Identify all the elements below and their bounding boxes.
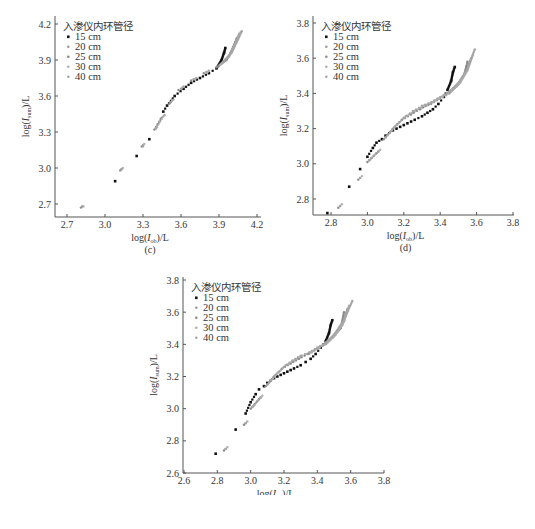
y-tick-label: 3.6 — [297, 53, 310, 64]
x-tick-label: 4.2 — [251, 219, 264, 230]
x-tick-label: 3.4 — [311, 475, 324, 486]
y-tick-label: 3.8 — [297, 18, 310, 29]
x-tick-label: 3.0 — [361, 217, 374, 228]
y-tick-label: 3.4 — [297, 88, 310, 99]
legend-entry: 40 cm — [75, 71, 101, 82]
series-40-cm — [339, 48, 476, 207]
y-axis-label: log(Isum)/L — [278, 95, 290, 137]
legend-marker-icon — [325, 46, 328, 49]
series-30-cm — [341, 53, 474, 205]
x-tick-label: 3.4 — [434, 217, 447, 228]
y-tick-label: 2.8 — [167, 435, 180, 446]
legend-marker-icon — [325, 66, 328, 69]
y-tick-label: 4.2 — [39, 19, 52, 30]
legend: 入渗仪内环管径15 cm20 cm25 cm30 cm40 cm — [63, 20, 134, 82]
y-tick-label: 3.9 — [39, 55, 52, 66]
y-tick-label: 3.2 — [167, 371, 180, 382]
series-15-cm — [326, 66, 456, 215]
x-axis-label: log(Iob)/L — [131, 232, 169, 244]
chart-panel-e: 2.62.83.03.23.43.63.82.62.83.03.23.43.63… — [140, 250, 400, 495]
x-tick-label: 3.6 — [175, 219, 188, 230]
legend-marker-icon — [195, 297, 198, 300]
y-tick-label: 3.6 — [39, 91, 52, 102]
series-25-cm — [223, 311, 345, 452]
x-axis-label: log(Iob)/L — [387, 230, 425, 242]
legend-marker-icon — [195, 317, 198, 320]
legend-marker-icon — [195, 307, 198, 310]
series-30-cm — [82, 31, 241, 207]
x-tick-label: 2.6 — [178, 475, 191, 486]
series-15-cm — [114, 47, 227, 183]
x-tick-label: 3.0 — [99, 219, 112, 230]
x-tick-label: 3.9 — [213, 219, 226, 230]
x-tick-label: 3.3 — [137, 219, 150, 230]
y-tick-label: 3.2 — [297, 123, 310, 134]
x-tick-label: 3.2 — [398, 217, 411, 228]
legend-marker-icon — [195, 337, 198, 340]
chart-e-svg: 2.62.83.03.23.43.63.82.62.83.03.23.43.63… — [140, 250, 400, 495]
legend-marker-icon — [67, 66, 70, 69]
series-15-cm — [214, 319, 333, 455]
legend: 入渗仪内环管径15 cm20 cm25 cm30 cm40 cm — [321, 20, 392, 82]
series-25-cm — [337, 61, 469, 209]
chart-d-svg: 2.83.03.23.43.63.82.83.03.23.43.63.8log(… — [270, 0, 535, 255]
x-tick-label: 3.6 — [470, 217, 483, 228]
legend-marker-icon — [67, 76, 70, 79]
y-tick-label: 2.8 — [297, 194, 310, 205]
legend-marker-icon — [67, 46, 70, 49]
chart-c-svg: 2.73.03.33.63.94.22.73.03.33.63.94.2log(… — [0, 0, 270, 255]
y-tick-label: 3.0 — [167, 403, 180, 414]
y-tick-label: 3.3 — [39, 127, 52, 138]
legend-marker-icon — [195, 327, 198, 330]
chart-panel-c: 2.73.03.33.63.94.22.73.03.33.63.94.2log(… — [0, 0, 270, 255]
legend-marker-icon — [67, 36, 70, 39]
y-axis-label: log(Isum)/L — [20, 96, 32, 138]
legend-marker-icon — [67, 56, 70, 59]
y-tick-label: 3.0 — [297, 158, 310, 169]
x-tick-label: 2.8 — [325, 217, 338, 228]
x-axis-label: log(Iob)/L — [257, 488, 295, 495]
x-tick-label: 2.7 — [61, 219, 74, 230]
legend-marker-icon — [325, 36, 328, 39]
y-axis-label: log(Isum)/L — [148, 354, 160, 396]
x-tick-label: 3.2 — [278, 475, 291, 486]
legend-marker-icon — [325, 76, 328, 79]
y-tick-label: 3.6 — [167, 307, 180, 318]
y-tick-label: 3.4 — [167, 339, 180, 350]
chart-panel-d: 2.83.03.23.43.63.82.83.03.23.43.63.8log(… — [270, 0, 535, 255]
x-tick-label: 3.8 — [378, 475, 391, 486]
series-40-cm — [224, 300, 353, 450]
x-tick-label: 3.6 — [344, 475, 357, 486]
y-tick-label: 3.8 — [167, 275, 180, 286]
panel-label: (d) — [400, 242, 412, 254]
x-tick-label: 3.0 — [244, 475, 257, 486]
legend-marker-icon — [325, 56, 328, 59]
y-tick-label: 3.0 — [39, 163, 52, 174]
x-tick-label: 3.8 — [507, 217, 520, 228]
legend-entry: 40 cm — [333, 71, 359, 82]
x-tick-label: 2.8 — [211, 475, 224, 486]
y-tick-label: 2.6 — [167, 468, 180, 479]
legend: 入渗仪内环管径15 cm20 cm25 cm30 cm40 cm — [191, 281, 262, 343]
legend-entry: 40 cm — [203, 332, 229, 343]
y-tick-label: 2.7 — [39, 199, 52, 210]
